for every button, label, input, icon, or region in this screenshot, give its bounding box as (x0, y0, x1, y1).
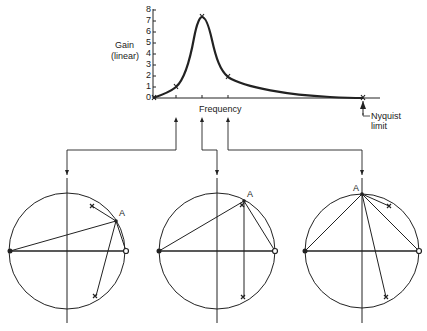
y-axis-label-line2: (linear) (111, 51, 139, 61)
circle3-point-a-label: A (353, 183, 359, 193)
ytick-7: 7 (141, 16, 151, 25)
nyquist-label-line2: limit (371, 121, 387, 131)
ytick-5: 5 (141, 38, 151, 47)
ytick-1: 1 (141, 82, 151, 91)
circle1-point-a-label: A (119, 208, 125, 218)
y-axis-label-line1: Gain (115, 40, 134, 50)
ytick-2: 2 (141, 71, 151, 80)
unit-circle-1 (9, 178, 126, 323)
diagram-canvas (0, 0, 427, 331)
gain-curve (153, 17, 363, 98)
ytick-8: 8 (141, 5, 151, 14)
ytick-0: 0 (141, 93, 151, 102)
unit-circle-3 (305, 178, 419, 323)
connector-lines (67, 120, 362, 175)
circle2-point-a-label: A (247, 189, 253, 199)
ytick-4: 4 (141, 49, 151, 58)
unit-circle-2 (159, 178, 275, 323)
nyquist-arrow-icon (360, 101, 366, 109)
nyquist-label-line1: Nyquist (371, 111, 401, 121)
ytick-3: 3 (141, 60, 151, 69)
ytick-6: 6 (141, 27, 151, 36)
x-axis-label: Frequency (199, 104, 242, 114)
